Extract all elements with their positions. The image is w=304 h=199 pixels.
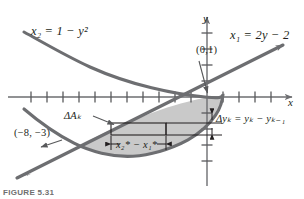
label-axis-y: y — [203, 12, 208, 24]
label-point-top: (0,1) — [196, 44, 217, 55]
point-bottom-leader — [41, 140, 62, 147]
figure-caption: FIGURE 5.31 — [3, 188, 54, 199]
label-strip-area: ΔAₖ — [64, 109, 81, 121]
strip-leader-line — [93, 116, 114, 125]
label-line-equation: x₁ = 2y − 2 — [230, 28, 290, 43]
label-strip-height: Δyₖ = yₖ − yₖ₋₁ — [216, 112, 285, 124]
label-strip-width: x₂* − x₁* — [116, 139, 157, 150]
figure-container: x₂ = 1 − y² x₁ = 2y − 2 (0,1) (−8, −3) Δ… — [0, 0, 304, 199]
label-point-bottom: (−8, −3) — [14, 127, 50, 138]
label-parabola-equation: x₂ = 1 − y² — [31, 24, 88, 39]
label-axis-x: x — [288, 96, 293, 108]
point-top-leader — [199, 61, 208, 93]
